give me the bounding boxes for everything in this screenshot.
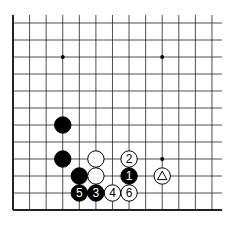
go-board: 215346 (0, 0, 235, 225)
move-number: 2 (126, 152, 133, 166)
white-stone (154, 168, 170, 184)
white-stone (88, 151, 104, 167)
white-stone-6: 6 (121, 185, 137, 201)
black-stone-5: 5 (71, 185, 87, 201)
white-stone (88, 168, 104, 184)
white-stone-icon (88, 151, 104, 167)
move-number: 5 (76, 186, 83, 200)
white-stone-4: 4 (104, 185, 120, 201)
move-number: 1 (126, 169, 133, 183)
white-stone-icon (88, 168, 104, 184)
board-grid (13, 15, 222, 210)
star-point (160, 157, 164, 161)
black-stone-icon (71, 168, 87, 184)
black-stone-1: 1 (121, 168, 137, 184)
black-stone (55, 117, 71, 133)
black-stone (71, 168, 87, 184)
move-number: 6 (126, 186, 133, 200)
move-number: 3 (93, 186, 100, 200)
white-stone-2: 2 (121, 151, 137, 167)
black-stone-icon (55, 117, 71, 133)
black-stone-3: 3 (88, 185, 104, 201)
star-point (61, 55, 65, 59)
star-point (160, 55, 164, 59)
black-stone (55, 151, 71, 167)
black-stone-icon (55, 151, 71, 167)
move-number: 4 (109, 186, 116, 200)
